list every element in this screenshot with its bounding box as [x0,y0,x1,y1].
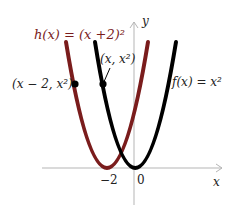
tick-label-minus2: −2 [100,173,118,187]
f-function-label: f(x) = x² [172,75,222,89]
tick-label-0: 0 [137,173,145,187]
y-axis-label: y [142,14,149,28]
point-f-leader [103,68,110,84]
point-h-label: (x − 2, x²) [12,77,73,91]
point-f-label: (x, x²) [100,52,135,66]
x-axis-label: x [213,175,220,189]
h-function-label: h(x) = (x +2)² [34,27,125,42]
